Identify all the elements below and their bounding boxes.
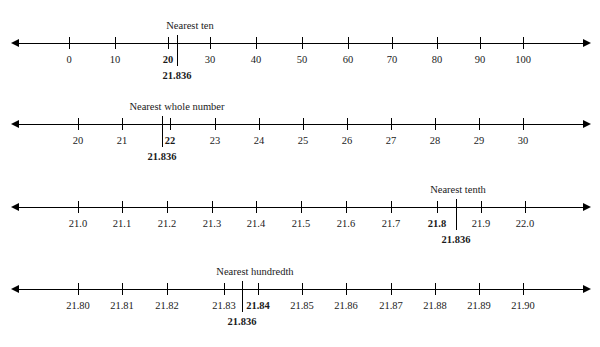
number-line: Nearest whole number20212223242526272829… <box>0 99 600 181</box>
value-pointer-label: 21.836 <box>137 70 217 82</box>
axis-tick-label: 25 <box>279 135 327 147</box>
axis-tick-label: 21.9 <box>457 218 505 230</box>
axis-tick <box>122 201 123 213</box>
rounded-value-label: 21.8 <box>413 218 461 230</box>
number-line: Nearest hundredth21.8021.8121.8221.8321.… <box>0 264 600 346</box>
axis-tick <box>523 283 524 295</box>
axis-tick <box>259 118 260 130</box>
axis-tick <box>167 283 168 295</box>
axis-tick <box>479 283 480 295</box>
value-pointer-line <box>456 199 457 230</box>
value-pointer-line <box>242 281 243 312</box>
axis-tick-label: 21.4 <box>232 218 280 230</box>
axis-tick-label: 21.0 <box>54 218 102 230</box>
axis-line <box>18 124 583 125</box>
axis-tick <box>168 37 169 49</box>
axis-tick-label: 21.5 <box>277 218 325 230</box>
axis-tick-label: 21.87 <box>367 300 415 312</box>
axis-tick-label: 21.85 <box>278 300 326 312</box>
axis-tick-label: 10 <box>91 54 139 66</box>
axis-tick <box>348 37 349 49</box>
rounding-number-lines-figure: { "figure": { "value_label": "21.836", "… <box>0 0 600 347</box>
rounded-value-label: 22 <box>146 135 194 147</box>
axis-arrow-left-icon <box>11 120 19 128</box>
axis-tick <box>523 118 524 130</box>
number-line-caption: Nearest ten <box>110 20 270 32</box>
axis-tick <box>435 118 436 130</box>
value-pointer-label: 21.836 <box>416 234 496 246</box>
axis-tick <box>69 37 70 49</box>
axis-tick-label: 21.7 <box>367 218 415 230</box>
axis-tick-label: 20 <box>54 135 102 147</box>
axis-tick <box>212 201 213 213</box>
axis-tick <box>303 118 304 130</box>
axis-tick-label: 60 <box>324 54 372 66</box>
axis-tick-label: 22.0 <box>501 218 549 230</box>
axis-tick <box>481 201 482 213</box>
axis-tick <box>122 283 123 295</box>
axis-tick <box>346 201 347 213</box>
axis-tick-label: 29 <box>455 135 503 147</box>
value-pointer-label: 21.836 <box>202 316 282 328</box>
axis-tick-label: 21.81 <box>98 300 146 312</box>
axis-tick-label: 80 <box>413 54 461 66</box>
axis-tick-label: 21.86 <box>322 300 370 312</box>
axis-tick <box>256 201 257 213</box>
axis-tick <box>115 37 116 49</box>
axis-tick <box>479 118 480 130</box>
axis-tick <box>256 37 257 49</box>
axis-tick-label: 70 <box>368 54 416 66</box>
axis-tick <box>170 118 171 130</box>
axis-tick-label: 30 <box>499 135 547 147</box>
axis-arrow-left-icon <box>11 285 19 293</box>
axis-tick <box>78 118 79 130</box>
axis-arrow-right-icon <box>583 203 591 211</box>
axis-tick-label: 24 <box>235 135 283 147</box>
axis-tick <box>435 283 436 295</box>
axis-tick <box>215 118 216 130</box>
axis-tick-label: 23 <box>191 135 239 147</box>
axis-tick-label: 27 <box>367 135 415 147</box>
axis-tick-label: 21.82 <box>143 300 191 312</box>
axis-tick-label: 21.90 <box>499 300 547 312</box>
axis-tick <box>224 283 225 295</box>
axis-tick <box>437 37 438 49</box>
axis-tick-label: 21.2 <box>143 218 191 230</box>
value-pointer-line <box>162 116 163 147</box>
axis-tick <box>346 283 347 295</box>
axis-tick <box>122 118 123 130</box>
axis-arrow-right-icon <box>583 120 591 128</box>
axis-tick <box>78 283 79 295</box>
number-line-caption: Nearest hundredth <box>175 266 335 278</box>
axis-tick <box>167 201 168 213</box>
number-line-caption: Nearest whole number <box>97 101 257 113</box>
axis-arrow-left-icon <box>11 203 19 211</box>
axis-tick <box>480 37 481 49</box>
axis-line <box>18 43 583 44</box>
axis-tick <box>301 201 302 213</box>
axis-tick-label: 90 <box>456 54 504 66</box>
axis-tick <box>258 283 259 295</box>
axis-tick-label: 100 <box>499 54 547 66</box>
axis-tick <box>392 37 393 49</box>
axis-tick <box>391 201 392 213</box>
axis-tick <box>391 118 392 130</box>
axis-tick-label: 30 <box>186 54 234 66</box>
rounded-value-label: 20 <box>144 54 192 66</box>
axis-tick-label: 40 <box>232 54 280 66</box>
axis-tick <box>523 37 524 49</box>
axis-tick-label: 21.88 <box>411 300 459 312</box>
axis-line <box>18 289 583 290</box>
axis-tick-label: 26 <box>323 135 371 147</box>
value-pointer-line <box>177 35 178 66</box>
axis-tick-label: 21.6 <box>322 218 370 230</box>
value-pointer-label: 21.836 <box>122 151 202 163</box>
axis-tick <box>78 201 79 213</box>
axis-tick-label: 21.3 <box>188 218 236 230</box>
axis-tick <box>525 201 526 213</box>
axis-tick-label: 28 <box>411 135 459 147</box>
axis-tick <box>302 37 303 49</box>
axis-arrow-right-icon <box>583 39 591 47</box>
axis-tick-label: 21.1 <box>98 218 146 230</box>
axis-tick-label: 21.80 <box>54 300 102 312</box>
